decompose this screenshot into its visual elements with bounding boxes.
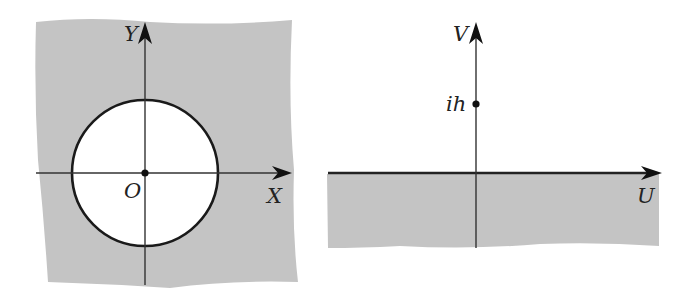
ih-point xyxy=(472,100,479,107)
origin-point xyxy=(141,169,148,176)
conformal-map-diagram: O X Y ih U V xyxy=(0,0,687,297)
origin-label: O xyxy=(124,179,141,203)
right-panel: ih U V xyxy=(327,22,662,248)
shaded-lower-half-plane xyxy=(327,174,659,248)
x-axis-label: X xyxy=(265,184,283,208)
u-axis-label: U xyxy=(637,184,656,208)
left-panel: O X Y xyxy=(35,19,298,288)
y-axis-label: Y xyxy=(124,22,140,46)
ih-label: ih xyxy=(446,92,466,116)
v-axis-label: V xyxy=(453,22,470,46)
